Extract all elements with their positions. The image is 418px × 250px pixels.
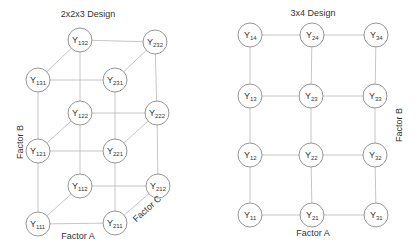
right-node-y14: Y14 xyxy=(238,23,262,47)
right-factor-a-label: Factor A xyxy=(296,228,330,238)
right-diagram-edges xyxy=(250,35,376,215)
right-node-y34: Y34 xyxy=(364,23,388,47)
right-node-y22: Y22 xyxy=(299,143,323,167)
left-diagram-title: 2x2x3 Design xyxy=(61,9,116,19)
left-factor-c-label: Factor C xyxy=(131,193,164,224)
left-factor-a-label: Factor A xyxy=(61,231,95,241)
right-node-y32: Y32 xyxy=(363,143,387,167)
left-node-y231: Y231 xyxy=(103,68,127,92)
right-diagram-title: 3x4 Design xyxy=(290,8,335,18)
left-diagram-edges xyxy=(38,40,158,224)
left-node-y222: Y222 xyxy=(145,101,169,125)
right-node-y23: Y23 xyxy=(299,84,323,108)
left-factor-b-label: Factor B xyxy=(15,125,25,159)
right-node-y21: Y21 xyxy=(300,203,324,227)
left-node-y132: Y132 xyxy=(68,28,92,52)
design-diagrams: Y132Y232Y131Y231Y122Y222Y121Y221Y112Y212… xyxy=(0,0,418,250)
left-node-y121: Y121 xyxy=(26,139,50,163)
left-node-y232: Y232 xyxy=(143,30,167,54)
right-node-y12: Y12 xyxy=(238,143,262,167)
right-diagram-nodes: Y14Y24Y34Y13Y23Y33Y12Y22Y32Y11Y21Y31 xyxy=(238,23,388,227)
right-factor-b-label: Factor B xyxy=(394,108,404,142)
left-node-y111: Y111 xyxy=(26,212,50,236)
left-node-y122: Y122 xyxy=(68,101,92,125)
right-node-y24: Y24 xyxy=(300,23,324,47)
right-node-y31: Y31 xyxy=(364,203,388,227)
right-node-y11: Y11 xyxy=(238,203,262,227)
right-node-y13: Y13 xyxy=(238,84,262,108)
left-node-y221: Y221 xyxy=(103,139,127,163)
left-node-y131: Y131 xyxy=(26,68,50,92)
right-node-y33: Y33 xyxy=(363,84,387,108)
left-node-y112: Y112 xyxy=(68,174,92,198)
left-node-y211: Y211 xyxy=(103,211,127,235)
left-node-y212: Y212 xyxy=(146,174,170,198)
